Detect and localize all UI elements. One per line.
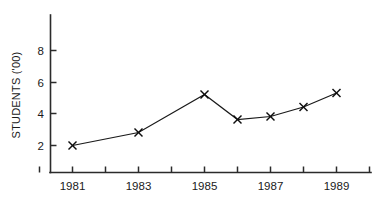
y-tick-label-8: 8 — [38, 45, 44, 57]
chart-background — [0, 0, 379, 204]
y-tick-label-2: 2 — [38, 140, 44, 152]
y-tick-label-6: 6 — [38, 77, 44, 89]
x-tick-label-1985: 1985 — [192, 180, 218, 192]
x-tick-label-1989: 1989 — [324, 180, 350, 192]
y-tick-label-4: 4 — [38, 108, 45, 120]
y-axis-title: STUDENTS ('00) — [10, 52, 22, 139]
x-tick-label-1983: 1983 — [126, 180, 152, 192]
x-tick-label-1981: 1981 — [60, 180, 86, 192]
x-tick-label-1987: 1987 — [258, 180, 284, 192]
line-chart-figure: 2 4 6 8 1981 1983 1985 1987 1989 STUDENT… — [0, 0, 379, 204]
chart-canvas: 2 4 6 8 1981 1983 1985 1987 1989 STUDENT… — [0, 0, 379, 204]
